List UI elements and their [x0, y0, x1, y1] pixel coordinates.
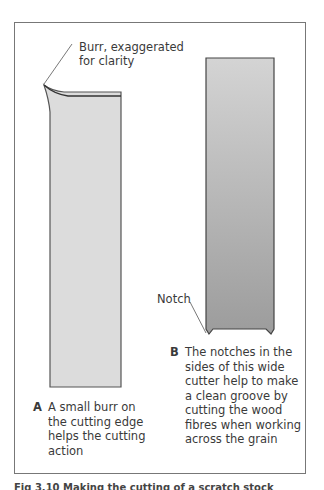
cutter-a	[44, 44, 121, 387]
caption-b-letter: B	[170, 345, 179, 360]
burr-label: Burr, exaggerated for clarity	[79, 40, 184, 68]
figure-caption: Fig 3.10 Making the cutting of a scratch…	[14, 481, 314, 490]
caption-a-letter: A	[33, 400, 42, 415]
cutter-b	[190, 58, 274, 334]
caption-b: B The notches in the sides of this wide …	[170, 345, 302, 447]
notch-leader-line	[190, 302, 206, 333]
caption-a-text: A small burr on the cutting edge helps t…	[48, 400, 158, 458]
caption-a: A A small burr on the cutting edge helps…	[33, 400, 158, 458]
caption-b-text: The notches in the sides of this wide cu…	[185, 345, 302, 447]
notch-label: Notch	[157, 292, 191, 306]
burr-leader-line	[44, 44, 72, 84]
burr-label-line1: Burr, exaggerated	[79, 40, 184, 54]
burr-label-line2: for clarity	[79, 54, 184, 68]
